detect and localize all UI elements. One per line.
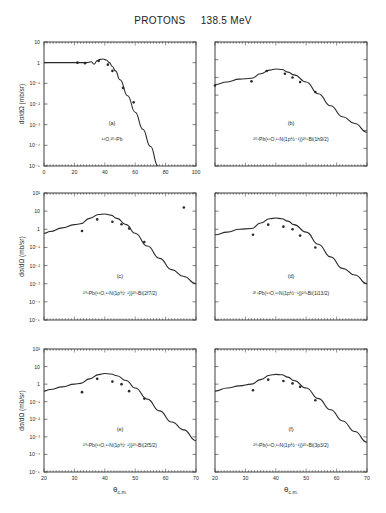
data-point [111,70,114,73]
x-axis-label: θc.m. [284,485,298,495]
data-point [252,233,255,236]
data-point [284,73,287,76]
data-point [97,60,100,63]
y-tick-label: 1 [37,60,40,66]
data-point [299,386,302,389]
y-tick-label: 10⁻³ [30,281,41,287]
plot-frame [215,193,367,320]
reaction-label: ²⁰⁸Pb(¹⁶O,¹⁵N(1p½⁻¹))²⁰⁹Bi(3p3/2) [253,442,329,448]
panel-d: (d)²⁰⁸Pb(¹⁶O,¹⁵N(1p½⁻¹))²⁰⁹Bi(1i13/2) [215,193,367,320]
panel-c: 10²10110⁻¹10⁻²10⁻³10⁻⁴10⁻⁵dσ/dΩ (mb/sr)(… [18,190,196,323]
y-tick-label: 10⁻² [30,101,41,107]
x-tick-label: 100 [192,169,201,175]
y-tick-label: 10⁻¹ [30,244,41,250]
y-tick-label: 10⁻⁴ [29,142,40,148]
data-point [120,223,123,226]
panel-tag: (d) [288,273,295,279]
reaction-label: ²⁰⁸Pb(¹⁶O,¹⁵N(1p½⁻¹))²⁰⁹Bi(1h9/2) [253,136,329,142]
x-tick-label: 50 [303,475,309,481]
y-tick-label: 10 [34,364,40,370]
y-tick-label: 10⁻⁴ [29,451,40,457]
x-tick-label: 60 [163,475,169,481]
x-tick-label: 40 [273,475,279,481]
theory-curve [44,59,158,166]
data-point [250,80,253,83]
data-point [143,241,146,244]
data-point [267,378,270,381]
panel-tag: (f) [288,426,293,432]
data-point [96,218,99,221]
y-axis-label: dσ/dΩ (mb/sr) [18,236,26,276]
data-point [265,70,268,73]
y-tick-label: 10⁻⁵ [29,317,40,323]
x-tick-label: 20 [72,169,78,175]
y-tick-label: 1 [37,226,40,232]
x-tick-label: 60 [334,475,340,481]
y-axis-label: dσ/dΩ (mb/sr) [18,390,26,430]
y-tick-label: 1 [37,381,40,387]
panel-tag: (e) [117,426,124,432]
x-tick-label: 40 [102,169,108,175]
y-tick-label: 10⁻⁴ [29,299,40,305]
data-point [314,246,317,249]
data-point [267,223,270,226]
x-tick-label: 60 [132,169,138,175]
reaction-label: ¹⁶O,²⁰⁸Pb [102,136,123,142]
plot-frame [44,193,196,320]
x-tick-label: 30 [72,475,78,481]
panel-e: 10²10110⁻¹10⁻²10⁻³10⁻⁴10⁻⁵dσ/dΩ (mb/sr)2… [18,346,199,495]
y-tick-label: 10⁻¹ [30,80,41,86]
data-point [252,389,255,392]
reaction-label: ²⁰⁸Pb(¹⁶O,¹⁵N(1p½⁻¹))²⁰⁹Bi(2f5/2) [83,442,157,448]
plot-frame [215,349,367,472]
y-tick-label: 10⁻² [30,416,41,422]
x-axis-label: θc.m. [113,485,127,495]
y-tick-label: 10⁻³ [30,434,41,440]
data-point [314,399,317,402]
data-point [214,84,217,87]
data-point [81,391,84,394]
x-tick-label: 0 [43,169,46,175]
data-point [111,380,114,383]
data-point [128,390,131,393]
plot-frame [215,42,367,166]
panel-tag: (a) [109,120,116,126]
data-point [120,383,123,386]
x-tick-label: 80 [163,169,169,175]
data-point [122,87,125,90]
y-tick-label: 10⁻⁵ [29,469,40,475]
reaction-label: ²⁰⁸Pb(¹⁶O,¹⁵N(1p½⁻¹))²⁰⁹Bi(2f7/2) [83,290,157,296]
y-tick-label: 10⁻³ [30,122,41,128]
y-tick-label: 10² [33,346,41,352]
data-point [128,227,131,230]
data-point [111,220,114,223]
data-point [143,397,146,400]
x-tick-label: 40 [102,475,108,481]
data-point [132,101,135,104]
y-tick-label: 10⁻² [30,263,41,269]
data-point [81,230,84,233]
x-tick-label: 50 [132,475,138,481]
x-tick-label: 70 [193,475,199,481]
data-point [96,378,99,381]
y-tick-label: 10⁻¹ [30,399,41,405]
y-axis-label: dσ/dΩ (mb/sr) [18,84,26,124]
reaction-label: ²⁰⁸Pb(¹⁶O,¹⁵N(1p½⁻¹))²⁰⁹Bi(1i13/2) [253,290,330,296]
y-tick-label: 10² [33,190,41,196]
y-tick-label: 10 [34,208,40,214]
data-point [291,76,294,79]
data-point [282,225,285,228]
plot-frame [44,42,196,166]
data-point [183,206,186,209]
data-point [282,380,285,383]
panel-a: 10110⁻¹10⁻²10⁻³10⁻⁴10⁻⁵dσ/dΩ (mb/sr)0204… [18,39,200,175]
panel-b: (b)²⁰⁸Pb(¹⁶O,¹⁵N(1p½⁻¹))²⁰⁹Bi(1h9/2) [214,42,367,166]
data-point [84,62,87,65]
y-tick-label: 10⁻⁵ [29,163,40,169]
x-tick-label: 20 [41,475,47,481]
x-tick-label: 70 [364,475,370,481]
data-point [299,234,302,237]
panel-tag: (b) [288,120,295,126]
x-tick-label: 20 [212,475,218,481]
y-tick-label: 10 [34,39,40,45]
